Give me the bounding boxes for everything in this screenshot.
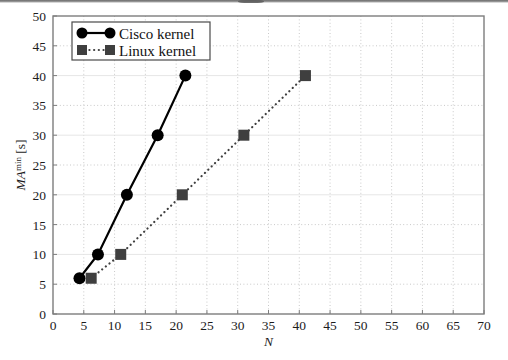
x-tick-label: 45 — [323, 318, 337, 333]
x-tick-label: 25 — [200, 318, 214, 333]
data-point-marker — [86, 273, 97, 284]
data-point-marker — [121, 189, 133, 201]
y-tick-label: 45 — [33, 39, 47, 54]
y-tick-label: 5 — [39, 277, 46, 292]
series-line-cisco-kernel — [79, 76, 185, 279]
legend-marker — [77, 45, 87, 55]
y-axis-title: MAmin [s] — [13, 139, 29, 191]
x-tick-label: 15 — [139, 318, 153, 333]
data-point-marker — [92, 248, 104, 260]
y-tick-label: 10 — [33, 247, 47, 262]
data-point-marker — [115, 249, 126, 260]
x-tick-label: 70 — [477, 318, 491, 333]
x-tick-label: 20 — [169, 318, 183, 333]
legend-marker — [105, 28, 116, 39]
y-tick-label: 35 — [33, 98, 47, 113]
data-point-marker — [179, 70, 191, 82]
x-tick-label: 10 — [108, 318, 122, 333]
x-tick-label: 60 — [416, 318, 430, 333]
x-tick-label: 55 — [385, 318, 399, 333]
data-series — [73, 70, 310, 285]
x-tick-label: 0 — [50, 318, 57, 333]
y-tick-label: 20 — [33, 188, 47, 203]
y-tick-label: 15 — [33, 218, 47, 233]
x-tick-label: 35 — [262, 318, 276, 333]
data-point-marker — [177, 189, 188, 200]
chart-plot-area: 0510152025303540455055606570051015202530… — [0, 0, 508, 360]
data-point-marker — [300, 70, 311, 81]
x-tick-label: 30 — [231, 318, 245, 333]
data-point-marker — [73, 272, 85, 284]
y-tick-label: 50 — [33, 9, 47, 24]
legend-label[interactable]: Cisco kernel — [119, 26, 194, 42]
x-tick-label: 65 — [446, 318, 460, 333]
x-axis-title: N — [263, 334, 274, 349]
chart-svg: 0510152025303540455055606570051015202530… — [0, 0, 508, 360]
legend-marker — [77, 28, 88, 39]
data-point-marker — [238, 130, 249, 141]
y-tick-label: 30 — [33, 128, 47, 143]
legend-marker — [105, 45, 115, 55]
x-tick-label: 50 — [354, 318, 368, 333]
x-tick-label: 40 — [293, 318, 307, 333]
y-tick-label: 40 — [33, 69, 47, 84]
chart-legend[interactable]: Cisco kernelLinux kernel — [72, 22, 210, 60]
y-tick-label: 0 — [39, 307, 46, 322]
x-tick-label: 5 — [80, 318, 87, 333]
data-point-marker — [152, 129, 164, 141]
series-line-linux-kernel — [91, 76, 305, 279]
gridlines — [53, 16, 484, 314]
legend-label[interactable]: Linux kernel — [119, 43, 196, 59]
y-tick-label: 25 — [33, 158, 47, 173]
